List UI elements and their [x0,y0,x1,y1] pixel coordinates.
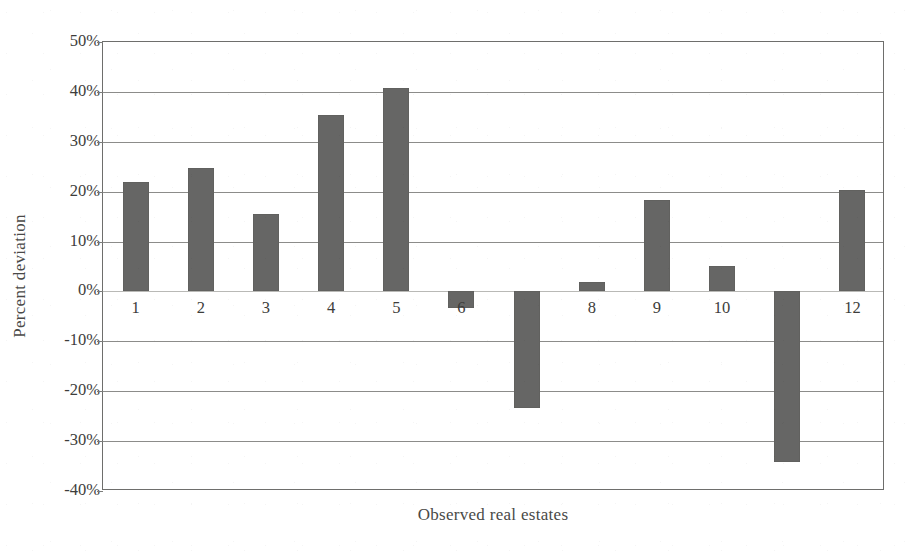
y-tick-label: -40% [44,482,100,499]
x-tick-label: 1 [131,300,139,317]
plot-area: 123456891012 [102,41,884,490]
y-tick-label: 20% [44,182,100,199]
x-tick-label: 12 [844,300,861,317]
y-tick-label: 10% [44,232,100,249]
x-tick-label: 9 [653,300,661,317]
x-tick-label: 5 [392,300,400,317]
y-tick-label: 30% [44,133,100,150]
bar-chart-figure: Percent deviation 50%40%30%20%10%0%-10%-… [0,0,908,552]
y-tick-label: -30% [44,432,100,449]
x-tick-label: 10 [714,300,731,317]
y-tick-label: 40% [44,83,100,100]
y-tick-label: 50% [44,33,100,50]
x-tick-label: 3 [262,300,270,317]
y-tick-mark [97,491,103,492]
x-axis-tick-labels: 123456891012 [103,42,883,489]
x-tick-label: 2 [197,300,205,317]
y-tick-label: -20% [44,382,100,399]
x-tick-label: 8 [588,300,596,317]
x-axis-title: Observed real estates [102,505,884,525]
y-axis-title: Percent deviation [0,0,40,552]
x-tick-label: 6 [457,300,465,317]
y-tick-label: 0% [44,282,100,299]
x-tick-label: 4 [327,300,335,317]
y-axis-tick-labels: 50%40%30%20%10%0%-10%-20%-30%-40% [44,41,100,490]
y-tick-label: -10% [44,332,100,349]
